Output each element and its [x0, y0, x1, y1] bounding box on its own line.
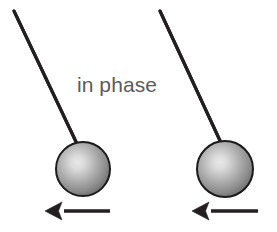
pendulum-diagram-canvas: in phase: [0, 0, 277, 232]
in-phase-label: in phase: [77, 73, 157, 96]
right-pendulum-bob: [197, 141, 253, 197]
pendulum-diagram: in phase: [0, 0, 277, 232]
figure-background: [0, 0, 277, 232]
left-pendulum-bob: [56, 142, 110, 196]
